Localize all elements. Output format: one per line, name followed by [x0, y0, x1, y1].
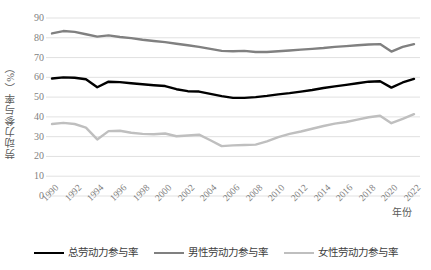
- legend-item[interactable]: 男性劳动力参与率: [154, 247, 268, 259]
- y-axis-title-label: 劳动力参与率（%）: [6, 62, 17, 159]
- y-tick-label: 10: [24, 171, 44, 181]
- y-tick-label: 80: [24, 33, 44, 43]
- y-axis-title: 劳动力参与率（%）: [0, 0, 22, 220]
- y-tick-label: 70: [24, 53, 44, 63]
- y-tick-label: 90: [24, 13, 44, 23]
- chart-legend: 总劳动力参与率男性劳动力参与率女性劳动力参与率: [0, 240, 431, 266]
- series-line: [52, 114, 414, 146]
- y-tick-label: 30: [24, 132, 44, 142]
- legend-label: 男性劳动力参与率: [188, 247, 268, 259]
- y-tick-label: 60: [24, 72, 44, 82]
- series-line: [52, 31, 414, 52]
- series-lines: [52, 31, 414, 146]
- labor-force-participation-line-chart: 劳动力参与率（%） 9080706050403020100 1990199219…: [0, 0, 431, 270]
- series-line: [52, 77, 414, 98]
- x-axis-title: 年份: [392, 204, 412, 219]
- legend-item[interactable]: 女性劳动力参与率: [284, 247, 398, 259]
- legend-line-swatch: [34, 252, 64, 254]
- legend-line-swatch: [154, 252, 184, 254]
- legend-label: 总劳动力参与率: [68, 247, 138, 259]
- x-axis-tick-labels: 1990199219941996199820002002200420062008…: [46, 196, 420, 238]
- legend-line-swatch: [284, 252, 314, 254]
- y-tick-label: 50: [24, 92, 44, 102]
- legend-item[interactable]: 总劳动力参与率: [34, 247, 138, 259]
- legend-label: 女性劳动力参与率: [318, 247, 398, 259]
- y-tick-label: 40: [24, 112, 44, 122]
- y-tick-label: 20: [24, 151, 44, 161]
- y-axis-tick-labels: 9080706050403020100: [20, 0, 44, 220]
